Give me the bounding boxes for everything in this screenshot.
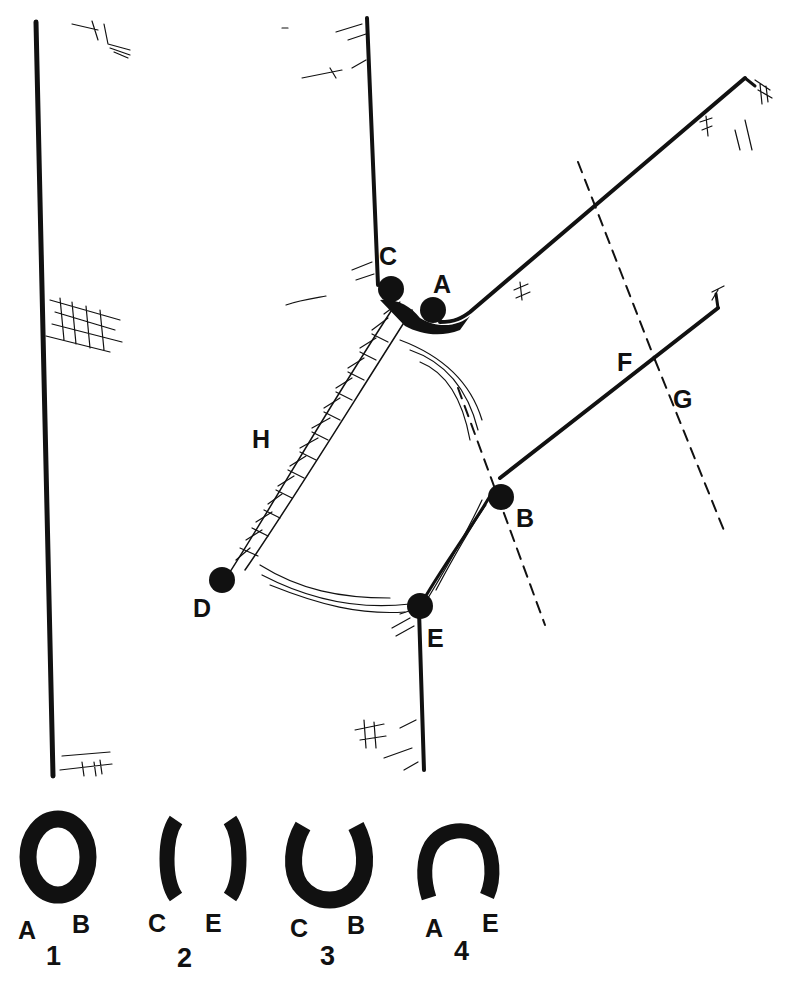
cs2-right-letter: E <box>205 909 222 937</box>
branch <box>440 78 772 478</box>
cs1-right-letter: B <box>72 910 90 938</box>
cs1-number: 1 <box>46 941 61 971</box>
u-ring-shape <box>294 826 365 900</box>
cross-section-3: C B 3 <box>290 826 365 971</box>
point-D-dot <box>209 567 235 593</box>
cs4-right-letter: E <box>482 909 499 937</box>
trunk-right-upper-edge <box>367 18 378 285</box>
label-C: C <box>379 242 397 270</box>
trunk-left-edge <box>36 22 53 776</box>
cs3-left-letter: C <box>290 914 308 942</box>
left-arc-shape <box>167 820 176 897</box>
cross-section-4: A E 4 <box>425 831 499 966</box>
branch-top-end-cap <box>745 78 755 86</box>
cs1-left-letter: A <box>18 916 36 944</box>
label-A: A <box>433 270 451 298</box>
cross-section-2: C E 2 <box>148 820 239 973</box>
label-B: B <box>516 504 534 532</box>
full-ring-shape <box>28 819 88 895</box>
cs4-left-letter: A <box>425 914 443 942</box>
right-arc-shape <box>230 820 239 897</box>
branch-end-cap <box>716 294 718 308</box>
branch-bark-texture <box>514 80 772 300</box>
cs2-left-letter: C <box>148 909 166 937</box>
point-B-dot <box>488 484 514 510</box>
trunk <box>36 18 424 776</box>
cross-section-1: A B 1 <box>18 819 90 971</box>
cs2-number: 2 <box>177 943 192 973</box>
diagram-canvas: A B C D E F G H A B 1 C E 2 C B 3 <box>0 0 796 1005</box>
point-E-dot <box>407 593 433 619</box>
label-E: E <box>427 624 444 652</box>
branch-union-diagram: A B C D E F G H A B 1 C E 2 C B 3 <box>0 0 796 1005</box>
label-D: D <box>193 594 211 622</box>
trunk-right-lower-edge <box>419 610 424 770</box>
cut-line-F <box>578 162 655 360</box>
cross-sections: A B 1 C E 2 C B 3 A E 4 <box>18 819 499 973</box>
label-H: H <box>252 425 270 453</box>
point-C-dot <box>378 276 404 302</box>
cs3-right-letter: B <box>347 911 365 939</box>
label-F: F <box>617 348 632 376</box>
point-A-dot <box>420 297 446 323</box>
label-G: G <box>673 385 692 413</box>
cs3-number: 3 <box>320 941 335 971</box>
branch-collar-shading <box>260 340 490 636</box>
n-ring-shape <box>425 831 492 898</box>
cs4-number: 4 <box>454 936 469 966</box>
bark-texture-marks <box>46 21 418 776</box>
